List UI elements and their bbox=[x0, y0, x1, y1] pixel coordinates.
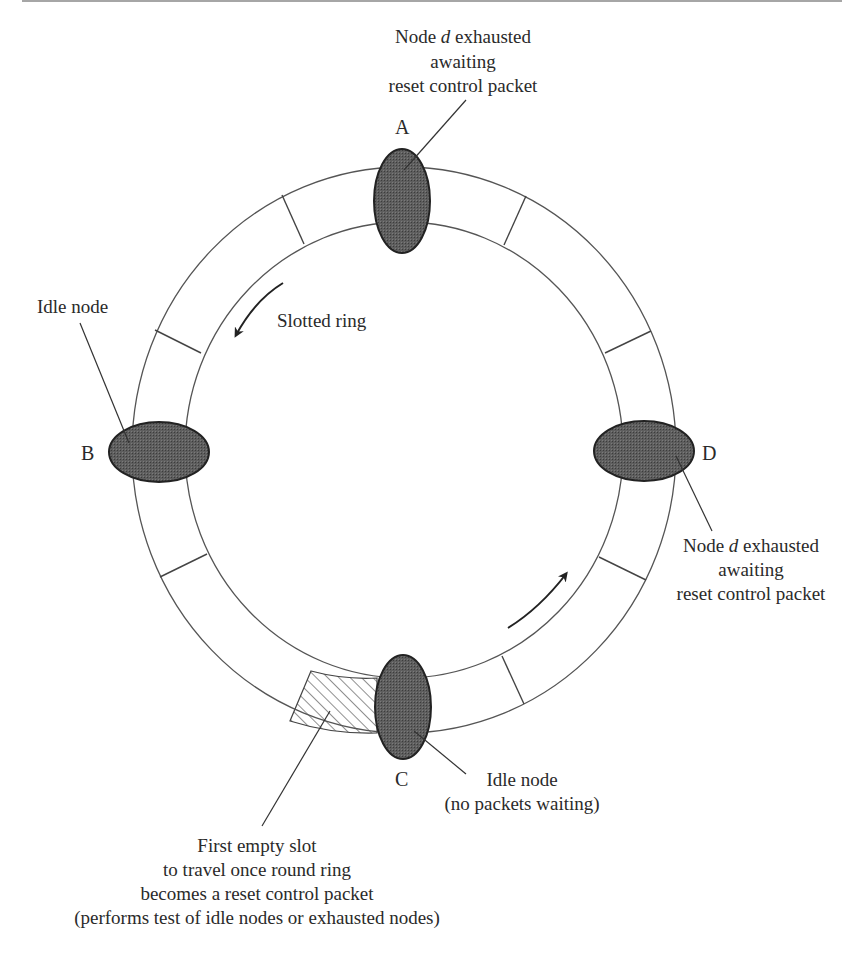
node-c-letter: C bbox=[395, 768, 408, 790]
node-a-annotation: Node d exhausted awaiting reset control … bbox=[389, 26, 538, 96]
slotted-ring-label: Slotted ring bbox=[277, 310, 367, 331]
slot-divider bbox=[599, 557, 646, 580]
svg-text:to travel once round ring: to travel once round ring bbox=[163, 859, 351, 880]
svg-text:Node d exhausted: Node d exhausted bbox=[683, 535, 820, 556]
node-b-letter: B bbox=[81, 442, 94, 464]
slot-divider bbox=[605, 331, 651, 353]
svg-text:awaiting: awaiting bbox=[718, 559, 784, 580]
direction-arrow-icon bbox=[508, 574, 566, 628]
node-d-annotation: Node d exhausted awaiting reset control … bbox=[677, 535, 826, 604]
svg-text:(performs test of idle nodes o: (performs test of idle nodes or exhauste… bbox=[74, 907, 440, 929]
slot-divider bbox=[160, 554, 207, 577]
svg-text:(no packets waiting): (no packets waiting) bbox=[444, 793, 599, 815]
leader-line-empty-slot bbox=[262, 711, 330, 826]
svg-text:Idle node: Idle node bbox=[486, 769, 557, 790]
svg-text:becomes a reset control packet: becomes a reset control packet bbox=[140, 883, 374, 904]
svg-text:reset control packet: reset control packet bbox=[389, 75, 538, 96]
svg-text:reset control packet: reset control packet bbox=[677, 583, 826, 604]
empty-slot-annotation: First empty slot to travel once round ri… bbox=[74, 835, 440, 929]
svg-text:First empty slot: First empty slot bbox=[197, 835, 317, 856]
node-d bbox=[594, 421, 694, 481]
node-c-annotation: Idle node (no packets waiting) bbox=[444, 769, 599, 815]
slot-divider bbox=[282, 195, 304, 244]
slot-divider bbox=[155, 330, 201, 353]
slot-divider bbox=[504, 196, 526, 245]
slot-divider bbox=[502, 656, 524, 704]
direction-arrow-icon bbox=[236, 283, 283, 335]
node-b-annotation: Idle node bbox=[37, 296, 108, 317]
ring-inner-edge bbox=[185, 222, 623, 678]
slotted-ring-diagram: A B C D Slotted ring Node d exhausted aw… bbox=[0, 0, 866, 955]
leader-line-node-a bbox=[404, 100, 466, 170]
svg-text:Node d exhausted: Node d exhausted bbox=[395, 26, 532, 47]
node-c bbox=[375, 655, 431, 759]
node-a-letter: A bbox=[395, 116, 410, 138]
leader-line-node-c bbox=[414, 731, 466, 774]
node-d-letter: D bbox=[702, 442, 716, 464]
svg-text:awaiting: awaiting bbox=[430, 51, 496, 72]
slot-dividers bbox=[155, 195, 651, 704]
leader-line-node-b bbox=[80, 323, 129, 443]
node-a bbox=[374, 149, 430, 253]
leader-line-node-d bbox=[676, 456, 712, 531]
